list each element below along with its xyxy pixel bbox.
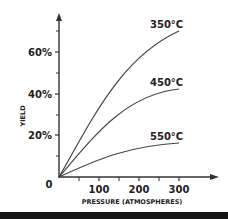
x-axis [59, 174, 219, 181]
y-axis-title: YIELD [19, 105, 27, 128]
x-tick-200: 200 [129, 184, 150, 195]
label-350c: 350°C [150, 19, 183, 30]
y-axis-arrow-icon [56, 13, 62, 21]
x-tick-300: 300 [169, 184, 190, 195]
x-axis-title: PRESSURE (ATMOSPHERES) [82, 198, 183, 206]
yield-vs-pressure-chart: 350°C 450°C 550°C 60% 40% 20% 0 100 200 … [0, 0, 228, 219]
origin-label: 0 [46, 179, 53, 190]
y-tick-60: 60% [28, 47, 52, 58]
x-axis-arrow-icon [210, 174, 219, 180]
label-550c: 550°C [150, 131, 183, 142]
y-tick-20: 20% [28, 130, 52, 141]
x-tick-100: 100 [89, 184, 110, 195]
curve-550c [59, 143, 179, 177]
label-450c: 450°C [150, 77, 183, 88]
y-tick-40: 40% [28, 89, 52, 100]
bottom-dark-band [0, 212, 228, 219]
y-axis [55, 13, 62, 178]
